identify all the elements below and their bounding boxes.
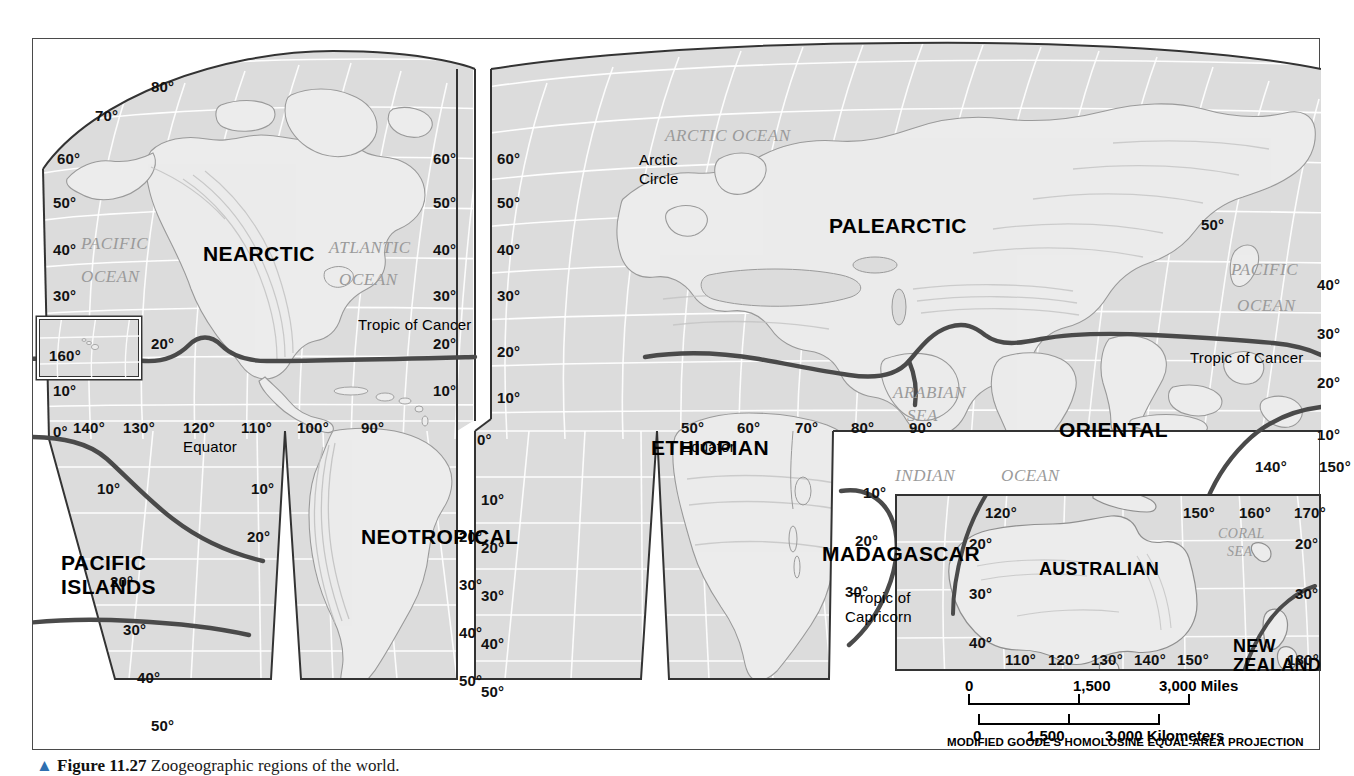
ocean-label-pacific-east-l1: PACIFIC — [1231, 261, 1298, 279]
ocean-label-arabian-l1: ARABIAN — [893, 384, 966, 402]
equator-label-west: Equator — [183, 439, 237, 455]
west-south-lat-50: 50° — [151, 718, 174, 734]
ocean-label-arctic: ARCTIC OCEAN — [665, 127, 791, 145]
caption-arrow-icon: ▲ — [36, 756, 53, 775]
east-left-lat-10: 10° — [497, 390, 520, 406]
west-lon-130: 130° — [123, 420, 155, 436]
aus-bottom-lon-150: 150° — [1177, 652, 1209, 668]
region-label-palearctic: PALEARCTIC — [829, 215, 967, 237]
region-label-ethiopian: ETHIOPIAN — [651, 437, 769, 459]
east-right-lat-50: 50° — [1201, 217, 1224, 233]
figure-caption: ▲ Figure 11.27 Zoogeographic regions of … — [36, 756, 400, 776]
ocean-label-pacific-west-l1: PACIFIC — [81, 235, 148, 253]
west-lat-50: 50° — [53, 195, 76, 211]
region-label-pacific-islands-l1: PACIFIC ISLANDS — [61, 551, 171, 598]
hawaii-box-longitude-label: 160° — [49, 348, 81, 364]
east-right-lat-10: 10° — [1317, 427, 1340, 443]
east-left-lat-60: 60° — [497, 151, 520, 167]
scale-miles-mid: 1,500 — [1073, 677, 1111, 694]
arctic-circle-label-l2: Circle — [639, 171, 679, 187]
scale-miles-labels: 0 1,500 3,000 Miles — [965, 677, 1255, 694]
ocean-label-pacific-west-l2: OCEAN — [81, 268, 140, 286]
east-right-lat-40: 40° — [1317, 277, 1340, 293]
west-lat-60: 60° — [57, 151, 80, 167]
east-right-lon-140: 140° — [1255, 459, 1287, 475]
aus-lon-160: 160° — [1239, 505, 1271, 521]
tropic-of-capricorn-l2: Capricorn — [845, 609, 912, 625]
aus-bottom-lon-140: 140° — [1134, 652, 1166, 668]
aus-lon-120: 120° — [985, 505, 1017, 521]
west-lon-100: 100° — [297, 420, 329, 436]
west-right-south-lat-30b: 30° — [459, 577, 482, 593]
arctic-circle-label-l1: Arctic — [639, 152, 678, 168]
aus-bottom-lon-180: 180° — [1287, 652, 1319, 668]
west-lat-20: 20° — [151, 336, 174, 352]
tropic-of-cancer-label-east: Tropic of Cancer — [1190, 350, 1304, 366]
east-lon-70: 70° — [795, 420, 818, 436]
scale-km-midtick — [1068, 714, 1070, 723]
region-label-nearctic: NEARCTIC — [203, 243, 315, 265]
aus-lat-left-30: 30° — [969, 586, 992, 602]
aus-lat-right-30: 30° — [1295, 586, 1318, 602]
east-left-south-lat-40: 40° — [481, 636, 504, 652]
west-right-lat-20: 20° — [433, 336, 456, 352]
east-lon-80: 80° — [851, 420, 874, 436]
east-left-south-lat-20: 20° — [481, 540, 504, 556]
ocean-label-indian: INDIAN — [895, 467, 955, 485]
east-lon-60: 60° — [737, 420, 760, 436]
ocean-label-coral-l1: CORAL — [1218, 527, 1265, 542]
west-right-lat-30: 30° — [433, 288, 456, 304]
east-right-lat-30: 30° — [1317, 326, 1340, 342]
west-right-lat-60: 60° — [433, 151, 456, 167]
east-right-lon-150: 150° — [1319, 459, 1351, 475]
west-right-south-lat-10: 10° — [251, 481, 274, 497]
west-right-south-lat-40b: 40° — [459, 625, 482, 641]
ocean-label-arabian-l2: SEA — [907, 407, 938, 425]
west-lat-40: 40° — [53, 242, 76, 258]
west-lon-110: 110° — [241, 420, 272, 436]
west-right-lat-40: 40° — [433, 242, 456, 258]
west-lat-70: 70° — [95, 108, 118, 124]
aus-lat-left-40: 40° — [969, 635, 992, 651]
scale-km-bar — [978, 714, 1160, 725]
aus-bottom-lon-130: 130° — [1091, 652, 1123, 668]
map-figure-frame: 160° — [32, 38, 1320, 750]
west-right-lat-10: 10° — [433, 383, 456, 399]
east-left-lat-30: 30° — [497, 288, 520, 304]
west-right-south-lat-20: 20° — [247, 529, 270, 545]
ocean-label-pacific-east-l2: OCEAN — [1237, 297, 1296, 315]
west-south-lat-10: 10° — [97, 481, 120, 497]
east-left-south-lat-50: 50° — [481, 684, 504, 700]
scale-miles-midtick — [1078, 694, 1080, 703]
west-lat-10: 10° — [53, 383, 76, 399]
east-lon-50: 50° — [681, 420, 704, 436]
scale-miles-end: 3,000 Miles — [1159, 677, 1238, 694]
east-mid-south-lat-10: 10° — [863, 485, 886, 501]
ocean-label-indian-ocean: OCEAN — [1001, 467, 1060, 485]
aus-lon-170: 170° — [1294, 505, 1326, 521]
west-right-lat-50: 50° — [433, 195, 456, 211]
region-label-oriental: ORIENTAL — [1059, 419, 1168, 441]
west-lon-90: 90° — [361, 420, 384, 436]
ocean-label-atlantic-l1: ATLANTIC — [329, 239, 411, 257]
west-lat-80: 80° — [151, 79, 174, 95]
ocean-label-atlantic-l2: OCEAN — [339, 271, 398, 289]
aus-lat-right-20: 20° — [1295, 536, 1318, 552]
west-south-lat-40: 40° — [137, 670, 160, 686]
west-lon-140: 140° — [73, 420, 105, 436]
east-left-south-lat-30: 30° — [481, 588, 504, 604]
east-left-lat-20: 20° — [497, 344, 520, 360]
region-label-madagascar: MADAGASCAR — [822, 543, 980, 565]
west-lat-0: 0° — [53, 424, 68, 440]
aus-bottom-lon-110: 110° — [1005, 652, 1036, 668]
east-left-south-lat-10: 10° — [481, 492, 504, 508]
caption-figure-number: Figure 11.27 — [57, 756, 146, 775]
scale-miles-bar — [968, 694, 1190, 705]
east-right-lat-20: 20° — [1317, 375, 1340, 391]
aus-lat-left-20: 20° — [969, 536, 992, 552]
east-left-lat-40: 40° — [497, 242, 520, 258]
east-left-lat-0: 0° — [477, 432, 492, 448]
caption-text: Zoogeographic regions of the world. — [151, 756, 400, 775]
aus-lon-150: 150° — [1183, 505, 1215, 521]
